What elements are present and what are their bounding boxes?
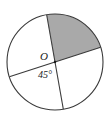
center-label-o: O: [40, 50, 48, 62]
circle-diagram-svg: O 45°: [0, 0, 108, 122]
geometry-figure: O 45°: [0, 0, 108, 122]
center-point: [54, 61, 56, 63]
angle-label-45: 45°: [38, 69, 52, 80]
shaded-sector: [47, 14, 101, 62]
